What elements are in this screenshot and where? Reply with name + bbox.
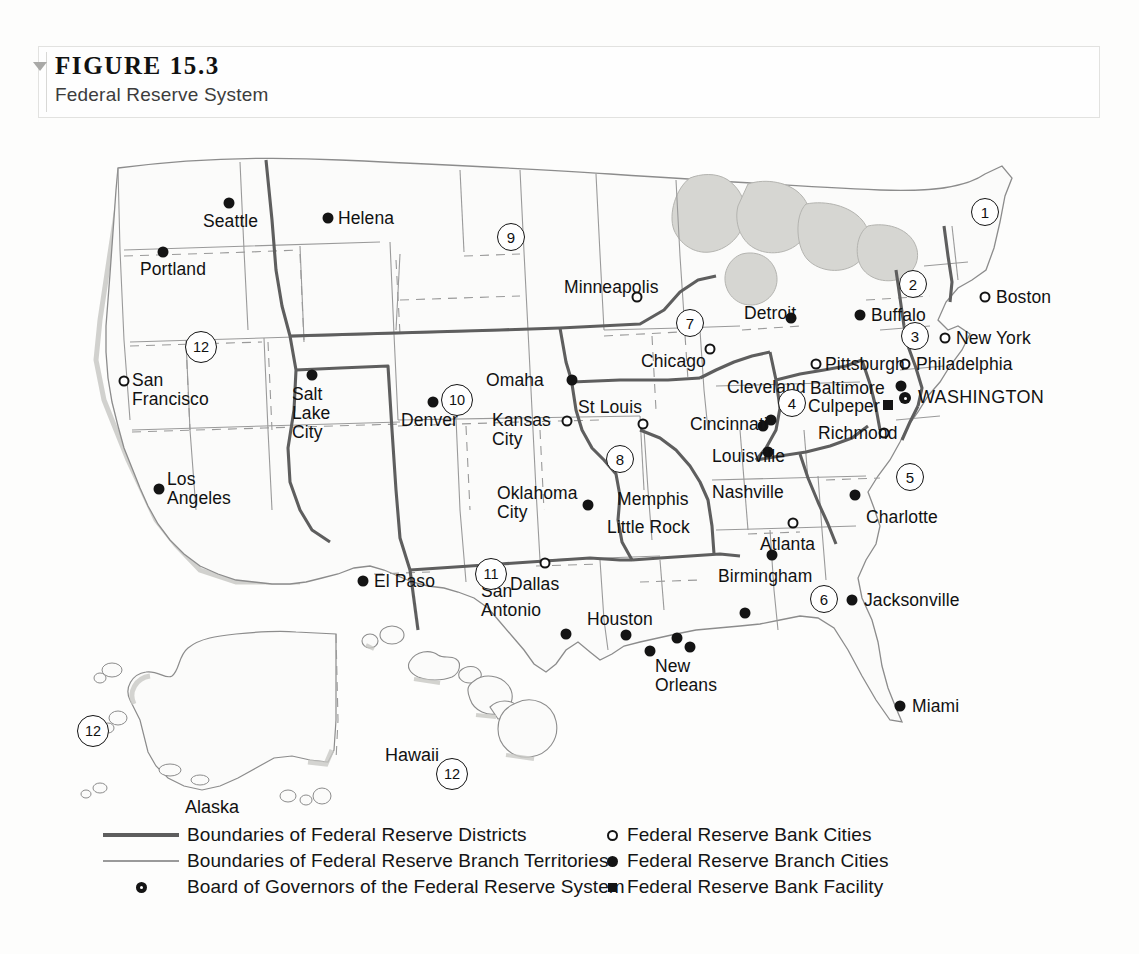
city-label: Oklahoma City xyxy=(497,484,578,522)
header-vertical-rule xyxy=(46,52,47,112)
city-label: Nashville xyxy=(712,483,784,502)
map-canvas: SeattlePortlandHelenaSan FranciscoSalt L… xyxy=(0,130,1139,820)
branch-city-marker xyxy=(428,397,439,408)
legend-label: Federal Reserve Bank Cities xyxy=(627,824,872,846)
legend-row: Board of Governors of the Federal Reserv… xyxy=(95,874,625,900)
legend-row: Boundaries of Federal Reserve Districts xyxy=(95,822,625,848)
district-badge-10: 10 xyxy=(441,384,473,416)
city-label: Atlanta xyxy=(760,535,815,554)
branch-city-marker xyxy=(855,310,866,321)
district-badge-12: 12 xyxy=(436,758,468,790)
city-label: El Paso xyxy=(374,572,435,591)
branch-city-marker xyxy=(850,490,861,501)
city-label: Culpeper xyxy=(808,397,880,416)
legend-row: Federal Reserve Bank Cities xyxy=(597,822,889,848)
city-label: Houston xyxy=(587,610,653,629)
branch-city-marker xyxy=(895,701,906,712)
board-of-governors-marker xyxy=(899,392,911,404)
city-label: Salt Lake City xyxy=(292,385,330,442)
bank-city-marker xyxy=(811,359,822,370)
bank-city-marker xyxy=(940,333,951,344)
bank-city-marker xyxy=(119,376,130,387)
district-badge-9: 9 xyxy=(497,223,525,251)
legend-column-left: Boundaries of Federal Reserve DistrictsB… xyxy=(95,822,625,900)
district-badge-6: 6 xyxy=(810,585,838,613)
district-badge-3: 3 xyxy=(901,322,929,350)
city-label: Minneapolis xyxy=(564,278,659,297)
city-label: New York xyxy=(956,329,1031,348)
city-label: Pittsburgh xyxy=(825,355,905,374)
city-label: Kansas City xyxy=(492,411,551,449)
city-label: St Louis xyxy=(578,398,642,417)
branch-city-marker xyxy=(567,375,578,386)
city-label: Los Angeles xyxy=(167,470,231,508)
city-label: Boston xyxy=(996,288,1051,307)
branch-city-marker xyxy=(323,213,334,224)
map-legend: Boundaries of Federal Reserve DistrictsB… xyxy=(0,822,1139,912)
branch-city-marker xyxy=(621,630,632,641)
district-badge-11: 11 xyxy=(475,558,507,590)
branch-boundary-swatch xyxy=(103,860,179,861)
legend-row: Federal Reserve Bank Facility xyxy=(597,874,889,900)
branch-city-marker xyxy=(561,629,572,640)
bank-city-icon xyxy=(607,830,618,841)
figure-subtitle: Federal Reserve System xyxy=(55,84,268,106)
legend-column-right: Federal Reserve Bank CitiesFederal Reser… xyxy=(597,822,889,900)
district-badge-4: 4 xyxy=(778,389,806,417)
branch-city-marker xyxy=(158,247,169,258)
branch-city-marker xyxy=(358,576,369,587)
branch-city-marker xyxy=(307,370,318,381)
district-badge-12: 12 xyxy=(77,715,109,747)
branch-city-marker xyxy=(896,381,907,392)
branch-city-marker xyxy=(224,198,235,209)
city-label: Detroit xyxy=(744,304,796,323)
branch-city-marker xyxy=(645,646,656,657)
city-label: Miami xyxy=(912,697,959,716)
figure-number: FIGURE 15.3 xyxy=(55,52,220,80)
district-badge-5: 5 xyxy=(896,463,924,491)
bank-facility-marker xyxy=(883,400,893,410)
city-label: Omaha xyxy=(486,371,544,390)
bank-city-marker xyxy=(705,344,716,355)
branch-city-marker xyxy=(847,595,858,606)
district-badge-1: 1 xyxy=(971,198,999,226)
city-label: New Orleans xyxy=(655,657,717,695)
city-label: Richmond xyxy=(818,424,898,443)
city-label: Memphis xyxy=(617,490,689,509)
city-label: Jacksonville xyxy=(864,591,960,610)
city-label: Louisville xyxy=(712,447,785,466)
branch-city-marker xyxy=(583,500,594,511)
branch-city-icon xyxy=(607,856,618,867)
city-label: Seattle xyxy=(203,212,258,231)
city-label: Helena xyxy=(338,209,394,228)
bank-city-marker xyxy=(562,416,573,427)
legend-row: Federal Reserve Branch Cities xyxy=(597,848,889,874)
legend-label: Federal Reserve Bank Facility xyxy=(627,876,883,898)
city-label: San Francisco xyxy=(132,371,209,409)
city-label: Philadelphia xyxy=(916,355,1013,374)
bank-city-marker xyxy=(638,419,649,430)
district-badge-2: 2 xyxy=(899,270,927,298)
district-boundary-swatch xyxy=(103,833,179,836)
branch-city-marker xyxy=(672,633,683,644)
bank-city-marker xyxy=(980,292,991,303)
inset-label-alaska: Alaska xyxy=(185,797,239,818)
city-label: Birmingham xyxy=(718,567,812,586)
bank-city-marker xyxy=(788,518,799,529)
city-label: Portland xyxy=(140,260,206,279)
city-label: Charlotte xyxy=(866,508,938,527)
city-label: Cincinnati xyxy=(690,415,768,434)
branch-city-marker xyxy=(740,608,751,619)
district-badge-12: 12 xyxy=(185,331,217,363)
board-of-governors-icon xyxy=(136,882,147,893)
bank-facility-icon xyxy=(608,883,617,892)
triangle-down-icon xyxy=(33,62,47,71)
legend-label: Board of Governors of the Federal Reserv… xyxy=(187,876,625,898)
bank-city-marker xyxy=(540,558,551,569)
branch-city-marker xyxy=(154,484,165,495)
district-badge-7: 7 xyxy=(676,309,704,337)
city-label: Little Rock xyxy=(607,518,690,537)
legend-row: Boundaries of Federal Reserve Branch Ter… xyxy=(95,848,625,874)
district-badge-8: 8 xyxy=(606,445,634,473)
legend-label: Boundaries of Federal Reserve Branch Ter… xyxy=(187,850,609,872)
